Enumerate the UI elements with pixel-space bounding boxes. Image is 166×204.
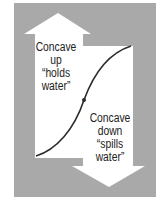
diagram-graphic xyxy=(0,0,166,204)
inflection-point-dot xyxy=(82,98,86,102)
concave-up-line-4: water” xyxy=(30,80,82,93)
concave-down-line-4: water” xyxy=(84,151,136,164)
concave-down-label: Concave down “spills water” xyxy=(84,112,136,164)
concavity-diagram: Concave up “holds water” Concave down “s… xyxy=(0,0,166,204)
concave-up-label: Concave up “holds water” xyxy=(30,41,82,93)
